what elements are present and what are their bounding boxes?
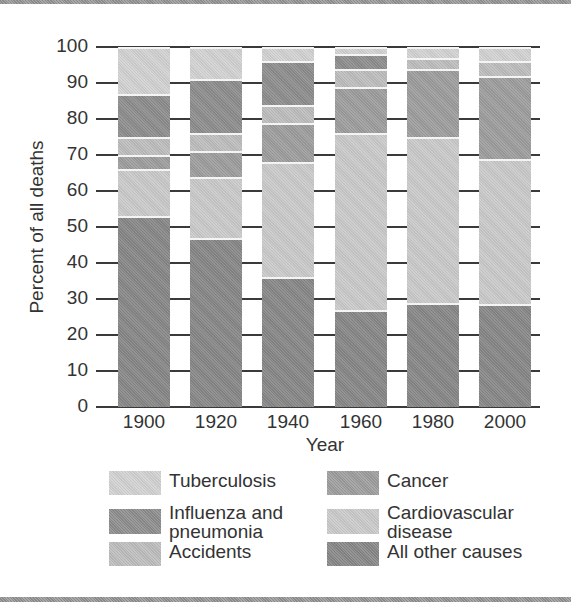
bar-segment-all-other-causes bbox=[190, 238, 242, 407]
bar-segment-cancer bbox=[118, 155, 170, 169]
bar-segment-tuberculosis bbox=[190, 47, 242, 79]
bar-segment-all-other-causes bbox=[407, 303, 459, 407]
y-tick-label: 70 bbox=[38, 144, 88, 164]
legend-item: Accidents bbox=[109, 542, 339, 566]
legend-label: Cardiovasculardisease bbox=[387, 503, 557, 541]
bar-segment-tuberculosis bbox=[407, 47, 459, 58]
legend-swatch bbox=[109, 542, 161, 566]
legend-item: Influenza andpneumonia bbox=[109, 503, 339, 541]
legend-label: Cancer bbox=[387, 471, 557, 490]
bar-segment-accidents bbox=[335, 69, 387, 87]
x-tick-label: 1900 bbox=[108, 411, 180, 433]
bar-segment-influenza-and-pneumonia bbox=[335, 54, 387, 68]
bar-segment-cardiovascular-disease bbox=[407, 137, 459, 303]
bar-1900 bbox=[118, 47, 170, 407]
bar-1940 bbox=[262, 47, 314, 407]
bar-segment-all-other-causes bbox=[262, 277, 314, 407]
y-tick-label: 10 bbox=[38, 360, 88, 380]
bar-segment-tuberculosis bbox=[262, 47, 314, 61]
bar-segment-tuberculosis bbox=[118, 47, 170, 94]
legend-label: Tuberculosis bbox=[169, 471, 339, 490]
legend-item: Cardiovasculardisease bbox=[327, 503, 557, 541]
y-tick-label: 80 bbox=[38, 108, 88, 128]
x-tick-label: 2000 bbox=[469, 411, 541, 433]
bar-segment-cancer bbox=[190, 151, 242, 176]
legend-label: Influenza andpneumonia bbox=[169, 503, 339, 541]
y-tick-label: 30 bbox=[38, 288, 88, 308]
legend-label: Accidents bbox=[169, 542, 339, 561]
x-tick-label: 1980 bbox=[397, 411, 469, 433]
legend-label: All other causes bbox=[387, 542, 557, 561]
bar-segment-accidents bbox=[479, 61, 531, 75]
legend-swatch bbox=[109, 471, 161, 495]
y-tick-label: 50 bbox=[38, 216, 88, 236]
bar-segment-accidents bbox=[262, 105, 314, 123]
bar-segment-cancer bbox=[479, 76, 531, 159]
bar-segment-all-other-causes bbox=[335, 310, 387, 407]
y-tick-label: 60 bbox=[38, 180, 88, 200]
bar-segment-tuberculosis bbox=[479, 47, 531, 61]
y-tick-label: 100 bbox=[38, 36, 88, 56]
x-tick-label: 1920 bbox=[180, 411, 252, 433]
bar-1960 bbox=[335, 47, 387, 407]
x-axis-label: Year bbox=[285, 434, 365, 456]
legend-swatch bbox=[109, 509, 161, 534]
legend-item: Tuberculosis bbox=[109, 471, 339, 495]
bar-segment-tuberculosis bbox=[335, 47, 387, 54]
bar-segment-all-other-causes bbox=[118, 216, 170, 407]
bar-segment-cardiovascular-disease bbox=[335, 133, 387, 309]
bar-segment-influenza-and-pneumonia bbox=[190, 79, 242, 133]
bar-segment-accidents bbox=[407, 58, 459, 69]
legend-swatch bbox=[327, 471, 379, 495]
x-tick-label: 1960 bbox=[325, 411, 397, 433]
bottom-border-rule bbox=[0, 597, 571, 602]
legend-swatch bbox=[327, 509, 379, 534]
legend-swatch bbox=[327, 542, 379, 566]
bar-segment-accidents bbox=[118, 137, 170, 155]
bar-2000 bbox=[479, 47, 531, 407]
bar-1980 bbox=[407, 47, 459, 407]
bar-segment-cardiovascular-disease bbox=[479, 159, 531, 305]
bar-segment-accidents bbox=[190, 133, 242, 151]
y-tick-label: 20 bbox=[38, 324, 88, 344]
legend-item: All other causes bbox=[327, 542, 557, 566]
y-tick-label: 90 bbox=[38, 72, 88, 92]
x-tick-label: 1940 bbox=[252, 411, 324, 433]
bar-segment-all-other-causes bbox=[479, 304, 531, 407]
bar-segment-cardiovascular-disease bbox=[118, 169, 170, 216]
bar-segment-influenza-and-pneumonia bbox=[118, 94, 170, 137]
bar-segment-cardiovascular-disease bbox=[190, 177, 242, 238]
bar-segment-cancer bbox=[262, 123, 314, 163]
legend-item: Cancer bbox=[327, 471, 557, 495]
y-tick-label: 40 bbox=[38, 252, 88, 272]
bar-segment-cancer bbox=[407, 69, 459, 137]
y-tick-label: 0 bbox=[38, 396, 88, 416]
bar-1920 bbox=[190, 47, 242, 407]
bar-segment-cancer bbox=[335, 87, 387, 134]
bar-segment-cardiovascular-disease bbox=[262, 162, 314, 277]
bar-segment-influenza-and-pneumonia bbox=[262, 61, 314, 104]
